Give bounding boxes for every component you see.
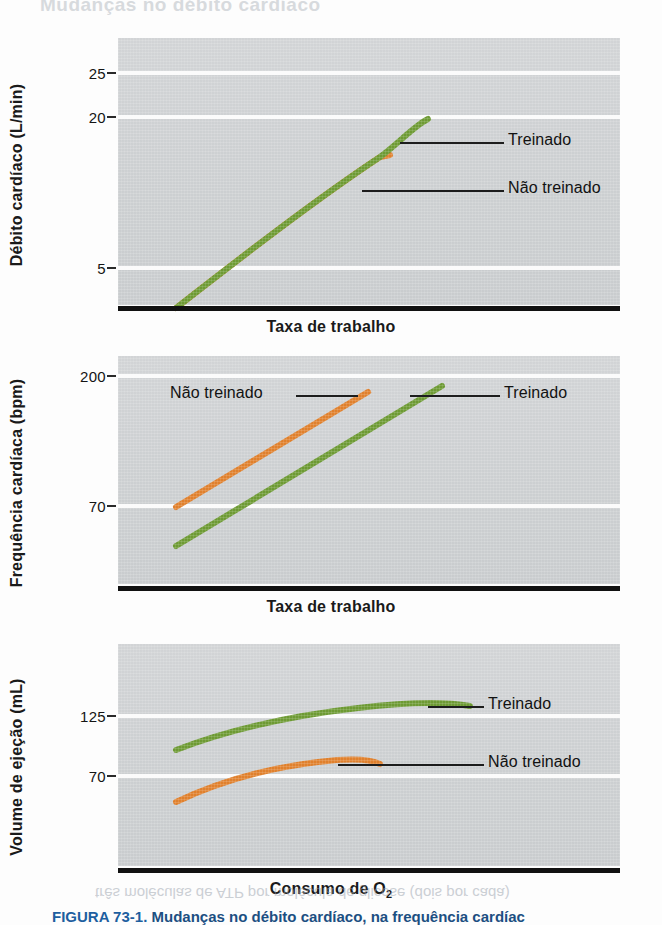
y-tick-mark	[107, 72, 116, 74]
legend-label-trained: Treinado	[488, 695, 551, 713]
y-axis-title: Volume de ejeção (mL)	[0, 636, 34, 898]
figure-caption-label: FIGURA 73-1.	[52, 908, 147, 925]
y-tick-mark	[107, 715, 116, 717]
y-tick-label: 5	[97, 260, 106, 277]
y-tick-mark	[107, 775, 116, 777]
y-axis-ticks: 25 20 5	[34, 30, 116, 320]
leader-line-untrained	[362, 190, 504, 192]
leader-line-untrained	[338, 764, 484, 766]
line-trained	[176, 703, 470, 750]
figure-caption-text: Mudanças no débito cardíaco, na frequênc…	[151, 908, 524, 925]
x-axis-title: Taxa de trabalho	[0, 318, 662, 336]
leader-line-untrained	[296, 395, 358, 397]
line-trained	[176, 119, 428, 308]
y-tick-label: 125	[80, 708, 106, 725]
leader-line-trained	[400, 142, 504, 144]
y-tick-label: 70	[89, 768, 106, 785]
y-tick-label: 20	[89, 109, 106, 126]
y-axis-ticks: 200 70	[34, 348, 116, 618]
x-axis-line	[118, 868, 620, 873]
y-axis-title: Débito cardíaco (L/min)	[0, 30, 34, 320]
y-tick-mark	[107, 375, 116, 377]
line-trained	[176, 386, 442, 546]
figure-caption: FIGURA 73-1. Mudanças no débito cardíaco…	[52, 908, 652, 925]
chart-stroke-volume: Volume de ejeção (mL) 125 70 Treinado Nã…	[0, 636, 662, 898]
legend-label-trained: Treinado	[508, 131, 571, 149]
legend-label-untrained: Não treinado	[488, 753, 581, 771]
y-tick-label: 70	[89, 498, 106, 515]
y-tick-label: 25	[89, 65, 106, 82]
legend-label-untrained: Não treinado	[508, 179, 601, 197]
x-axis-line	[118, 306, 620, 311]
legend-label-trained: Treinado	[504, 384, 567, 402]
scan-bleed-bottom: três moléculas de ATP por molécula de gl…	[95, 884, 595, 902]
plot-area	[118, 38, 620, 305]
x-axis-line	[118, 586, 620, 591]
leader-line-trained	[410, 395, 500, 397]
y-tick-mark	[107, 267, 116, 269]
leader-line-trained	[428, 706, 484, 708]
y-axis-title: Frequência cardíaca (bpm)	[0, 348, 34, 618]
y-tick-label: 200	[80, 368, 106, 385]
y-tick-mark	[107, 505, 116, 507]
figure-page: Mudanças no débito cardíaco Débito cardí…	[0, 0, 662, 925]
y-axis-ticks: 125 70	[34, 636, 116, 898]
series-lines	[118, 38, 620, 305]
chart-heart-rate: Frequência cardíaca (bpm) 200 70 Não tre…	[0, 348, 662, 618]
scan-bleed-top: Mudanças no débito cardíaco	[40, 0, 600, 16]
legend-label-untrained: Não treinado	[170, 384, 263, 402]
chart-cardiac-output: Débito cardíaco (L/min) 25 20 5 Treinado…	[0, 30, 662, 320]
x-axis-title: Taxa de trabalho	[0, 598, 662, 616]
y-tick-mark	[107, 116, 116, 118]
